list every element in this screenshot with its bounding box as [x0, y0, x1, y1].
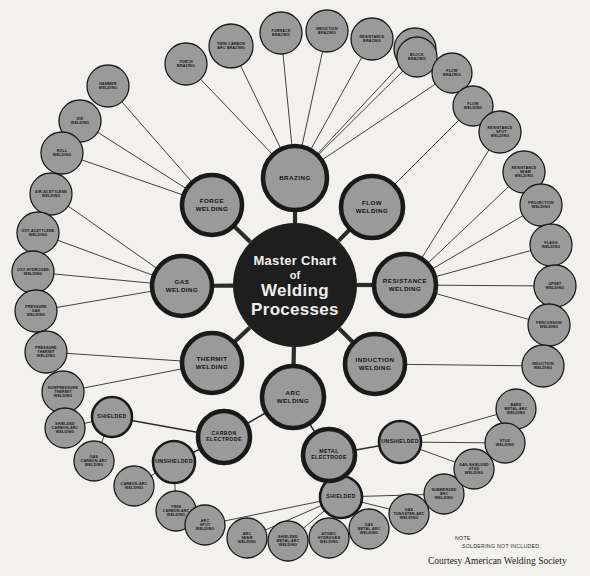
leaf-node-resistance-brazing[interactable]: RESISTANCEBRAZING	[351, 18, 393, 60]
connector-projection-welding	[432, 216, 523, 270]
node-label: SHIELDEDMETAL-ARCWELDING	[277, 535, 300, 548]
node-label: PROJECTIONWELDING	[528, 201, 554, 209]
node-label: UNSHIELDED	[155, 458, 193, 464]
connector-gas-tungsten-arc-welding	[361, 502, 389, 509]
connector-resistance-seam-welding	[427, 186, 508, 263]
leaf-node-roll-welding[interactable]: ROLLWELDING	[41, 132, 83, 174]
node-label: CARBONELECTRODE	[206, 430, 242, 442]
leaf-node-upset-welding[interactable]: UPSETWELDING	[534, 265, 576, 307]
leaf-node-pressure-gas-welding[interactable]: PRESSUREGASWELDING	[15, 290, 57, 332]
group-node-carbon-unshielded[interactable]: UNSHIELDED	[153, 441, 195, 483]
connector-flow-welding	[394, 120, 459, 185]
note-label: NOTE	[455, 535, 541, 543]
node-label: TORCHBRAZING	[177, 60, 195, 68]
leaf-node-induction-brazing[interactable]: INDUCTIONBRAZING	[306, 10, 348, 52]
node-label: BLOCKBRAZING	[408, 53, 426, 61]
node-label: INDUCTIONBRAZING	[316, 27, 338, 35]
leaf-node-carbon-arc-welding[interactable]: CARBON-ARCWELDING	[114, 466, 154, 506]
leaf-node-projection-welding[interactable]: PROJECTIONWELDING	[520, 184, 562, 226]
leaf-node-stud-welding[interactable]: STUDWELDING	[485, 423, 525, 463]
connector-bare-metal-arc-welding	[420, 414, 497, 436]
connector-percussion-welding	[435, 293, 529, 319]
spoke-center-to-flow	[339, 229, 351, 241]
connector-induction-brazing	[302, 52, 323, 147]
leaf-node-gas-tungsten-arc-welding[interactable]: GASTUNGSTEN-ARCWELDING	[389, 494, 429, 534]
connector-carbon-electrode	[246, 413, 266, 424]
node-label: INDUCTIONWELDING	[532, 362, 554, 370]
leaf-node-air-acetylene-welding[interactable]: AIR-ACETYLENEWELDING	[30, 173, 72, 215]
hub-node-brazing[interactable]: BRAZING	[263, 146, 327, 210]
hub-node-forge[interactable]: FORGEWELDING	[182, 175, 242, 235]
leaf-node-percussion-welding[interactable]: PERCUSSIONWELDING	[528, 304, 570, 346]
leaf-node-oxy-acetylene-welding[interactable]: OXY-ACETYLENEWELDING	[17, 212, 59, 254]
connector-torch-brazing	[201, 79, 273, 155]
leaf-node-gas-carbon-arc-welding[interactable]: GASCARBON-ARCWELDING	[74, 441, 114, 481]
leaf-node-gas-metal-arc-welding[interactable]: GASMETAL-ARCWELDING	[349, 509, 389, 549]
center-title-line: Processes	[251, 300, 339, 319]
leaf-node-resistance-spot-welding[interactable]: RESISTANCE- SPOTWELDING	[479, 111, 521, 153]
group-node-carbon-shielded[interactable]: SHIELDED	[92, 397, 132, 437]
connector-metal-unshielded	[355, 446, 380, 451]
note-block: NOTE SOLDERING NOT INCLUDED.	[455, 535, 541, 551]
leaf-node-atomic-hydrogen-welding[interactable]: ATOMICHYDROGENWELDING	[309, 518, 349, 558]
connector-furnace-brazing	[283, 54, 292, 146]
node-label: FURNACEBRAZING	[272, 29, 291, 37]
sub-hub-node-carbon-electrode[interactable]: CARBONELECTRODE	[198, 411, 250, 463]
node-label: THERMITWELDING	[196, 355, 229, 370]
center-node-layer: Master ChartofWeldingProcesses	[233, 223, 357, 347]
connector-induction-welding	[405, 364, 522, 365]
chart-canvas: TWIN CARBONARC BRAZINGFURNACEBRAZINGINDU…	[0, 0, 590, 576]
spoke-center-to-forge	[234, 226, 251, 242]
leaf-node-nonpressure-thermit-welding[interactable]: NONPRESSURETHERMITWELDING	[42, 371, 84, 413]
hub-node-resistance[interactable]: RESISTANCEWELDING	[374, 254, 436, 316]
node-label: UNSHIELDED	[381, 438, 419, 444]
hub-node-thermit[interactable]: THERMITWELDING	[182, 333, 242, 393]
hub-node-induction[interactable]: INDUCTIONWELDING	[345, 334, 405, 394]
note-text: SOLDERING NOT INCLUDED.	[455, 543, 541, 551]
connector-oxy-hydrogen-welding	[54, 274, 152, 283]
spoke-center-to-induction	[339, 329, 354, 343]
leaf-node-shielded-carbon-arc-welding[interactable]: SHIELDEDCARBON-ARCWELDING	[45, 408, 85, 448]
leaf-node-gas-shielded-stud-welding[interactable]: GAS-SHIELDEDSTUDWELDING	[454, 449, 494, 489]
sub-hub-node-metal-electrode[interactable]: METALELECTRODE	[303, 429, 355, 481]
node-label: TWIN CARBONARC BRAZING	[217, 42, 245, 50]
connector-gas-shielded-stud-welding	[420, 449, 455, 462]
node-label: INDUCTIONWELDING	[356, 356, 395, 371]
hub-node-gas[interactable]: GASWELDING	[152, 256, 212, 316]
connector-upset-welding	[436, 285, 534, 286]
leaf-node-arc-spot-welding[interactable]: ARCSPOTWELDING	[185, 505, 225, 545]
spoke-center-to-thermit	[234, 327, 250, 342]
connector-air-acetylene-welding	[68, 206, 157, 269]
hub-node-arc[interactable]: ARCWELDING	[262, 366, 324, 428]
leaf-node-induction-welding[interactable]: INDUCTIONWELDING	[522, 345, 564, 387]
connector-pressure-gas-welding	[57, 291, 153, 307]
leaf-node-twin-carbon-arc-brazing[interactable]: TWIN CARBONARC BRAZING	[209, 24, 253, 68]
leaf-node-pressure-thermit-welding[interactable]: PRESSURETHERMITWELDING	[25, 331, 67, 373]
node-label: FLASHWELDING	[542, 241, 560, 249]
leaf-node-furnace-brazing[interactable]: FURNACEBRAZING	[260, 12, 302, 54]
node-label: SHIELDED	[97, 413, 126, 419]
node-label: HAMMERWELDING	[99, 82, 117, 90]
leaf-node-block-brazing[interactable]: BLOCKBRAZING	[397, 37, 437, 77]
center-node[interactable]: Master ChartofWeldingProcesses	[233, 223, 357, 347]
node-label: RESISTANCEWELDING	[383, 277, 427, 292]
welding-processes-chart: TWIN CARBONARC BRAZINGFURNACEBRAZINGINDU…	[0, 0, 590, 576]
connector-nonpressure-thermit-welding	[84, 369, 183, 388]
node-label: FORGEWELDING	[196, 197, 229, 212]
leaf-node-arc-seam-welding[interactable]: ARCSEAMWELDING	[227, 518, 267, 558]
connector-carbon-shielded	[132, 421, 199, 433]
leaf-node-shielded-metal-arc-welding[interactable]: SHIELDEDMETAL-ARCWELDING	[268, 521, 308, 561]
connector-oxy-acetylene-welding	[58, 240, 154, 275]
connector-arc-spot-welding	[225, 501, 321, 521]
group-node-metal-unshielded[interactable]: UNSHIELDED	[379, 421, 421, 463]
courtesy-credit: Courtesy American Welding Society	[428, 556, 567, 566]
leaf-node-oxy-hydrogen-welding[interactable]: OXY-HYDROGENWELDING	[12, 251, 54, 293]
leaf-node-hammer-welding[interactable]: HAMMERWELDING	[87, 65, 129, 107]
leaf-node-torch-brazing[interactable]: TORCHBRAZING	[165, 43, 207, 85]
hub-node-flow[interactable]: FLOWWELDING	[341, 176, 403, 238]
leaf-node-flash-welding[interactable]: FLASHWELDING	[530, 224, 572, 266]
center-title-line: of	[290, 269, 301, 281]
center-title-line: Welding	[261, 281, 329, 300]
connector-twin-carbon-arc-brazing	[241, 66, 281, 149]
connector-stud-welding	[421, 442, 485, 443]
